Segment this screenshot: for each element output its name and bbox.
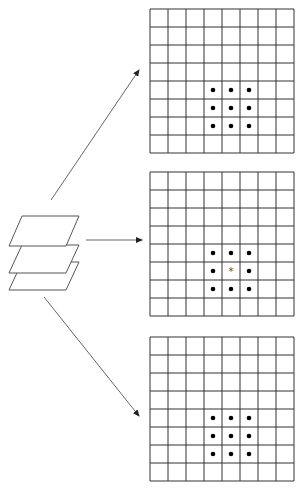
grid-top [150, 9, 294, 153]
dot-marker [211, 269, 216, 274]
dot-marker [211, 106, 216, 111]
figure-caption [55, 483, 255, 493]
diagram-canvas: * [0, 0, 301, 493]
dot-marker [211, 88, 216, 93]
dot-marker [247, 106, 252, 111]
dot-marker [229, 452, 234, 457]
dot-marker [247, 452, 252, 457]
diagram-figure: * [0, 0, 301, 493]
dot-marker [211, 251, 216, 256]
grid-bottom [150, 337, 294, 481]
dot-marker [229, 287, 234, 292]
dot-marker [247, 434, 252, 439]
layer-2 [9, 245, 79, 273]
stacked-layers-icon [9, 216, 79, 290]
dot-marker [247, 88, 252, 93]
dot-marker [229, 106, 234, 111]
dot-marker [211, 452, 216, 457]
dot-marker [247, 416, 252, 421]
dot-marker [211, 416, 216, 421]
grids: * [150, 9, 294, 481]
dot-marker [247, 124, 252, 129]
arrow-down-right-icon [44, 297, 139, 416]
dot-marker [229, 251, 234, 256]
dot-marker [247, 287, 252, 292]
dot-marker [229, 88, 234, 93]
asterisk-marker: * [228, 265, 234, 278]
dot-marker [229, 124, 234, 129]
dot-marker [247, 251, 252, 256]
dot-marker [211, 124, 216, 129]
grid-middle: * [150, 172, 294, 316]
layer-1 [9, 216, 79, 246]
arrow-up-right-icon [51, 70, 139, 200]
dot-marker [229, 434, 234, 439]
dot-marker [211, 434, 216, 439]
dot-marker [211, 287, 216, 292]
dot-marker [247, 269, 252, 274]
dot-marker [229, 416, 234, 421]
